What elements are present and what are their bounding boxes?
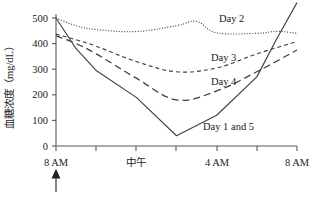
y-tick-label-100: 100: [32, 115, 48, 126]
x-tick-label-8am: 8 AM: [44, 157, 69, 168]
y-tick-label-400: 400: [32, 38, 48, 49]
x-tick-label-4am: 4 AM: [205, 157, 230, 168]
series-curves: [56, 3, 297, 136]
y-axis-title: 血糖浓度（mg/dL）: [3, 41, 15, 129]
series-label-day1and5: Day 1 and 5: [203, 121, 254, 132]
x-tick-label-noon: 中午: [126, 156, 146, 168]
series-label-day3: Day 3: [211, 52, 236, 63]
y-tick-label-300: 300: [32, 64, 48, 75]
y-tick-label-500: 500: [32, 13, 48, 24]
x-tick-label-8am-end: 8 AM: [285, 157, 310, 168]
blood-glucose-chart: 血糖浓度（mg/dL） 500 400 300 200 100 0 8 AM 中…: [0, 0, 317, 199]
series-label-day2: Day 2: [219, 13, 244, 24]
dose-arrow-icon: [52, 170, 59, 192]
series-label-day4: Day 4: [211, 76, 237, 87]
series-curve-day-2: [56, 18, 297, 34]
chart-canvas: 血糖浓度（mg/dL） 500 400 300 200 100 0 8 AM 中…: [0, 0, 317, 199]
series-curve-day-1-and-5: [56, 3, 297, 136]
y-tick-label-200: 200: [32, 89, 48, 100]
y-tick-label-0: 0: [43, 141, 48, 152]
